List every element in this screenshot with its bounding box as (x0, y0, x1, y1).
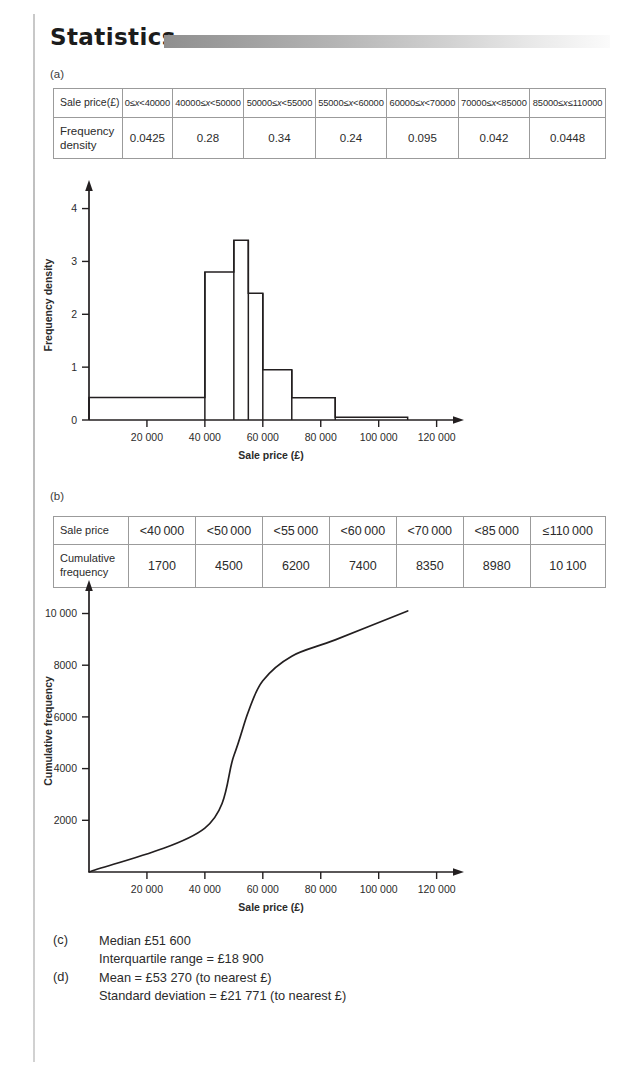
y-tick-label: 10 000 (45, 607, 77, 619)
histogram-x-axis-label: Sale price (£) (238, 449, 303, 461)
x-tick-label: 40 000 (189, 883, 221, 895)
table-row: Sale price(£) 0≤x<40000 40000≤x<50000 50… (54, 89, 606, 118)
table-a-interval-cell: 60000≤x<70000 (387, 89, 458, 118)
table-a-interval-cell: 70000≤x<85000 (458, 89, 529, 118)
x-tick-label: 80 000 (305, 883, 337, 895)
table-a-value-cell: 0.042 (458, 118, 529, 159)
table-b-sale-price-cell: <55 000 (262, 517, 329, 545)
cumulative-frequency-curve-path (89, 611, 408, 872)
histogram-chart: 01234 20 00040 00060 00080 000100 000120… (36, 168, 506, 468)
table-a-value-cell: 0.28 (172, 118, 243, 159)
y-tick-label: 2000 (54, 814, 78, 826)
table-b-sale-price-cell: <85 000 (463, 517, 530, 545)
histogram-y-axis-label: Frequency density (42, 258, 54, 351)
y-tick-label: 4 (71, 202, 77, 214)
table-a-interval-cell: 55000≤x<60000 (315, 89, 386, 118)
table-a-row-header-sale-price: Sale price(£) (54, 89, 123, 118)
cumulative-x-ticks: 20 00040 00060 00080 000100 000120 000 (131, 872, 456, 895)
x-axis-arrowhead (453, 868, 464, 876)
histogram-bars (89, 240, 408, 420)
histogram-svg: 01234 20 00040 00060 00080 000100 000120… (36, 168, 506, 468)
table-b-sale-price-cell: ≤110 000 (530, 517, 605, 545)
answer-block-c: (c) Median £51 600 Interquartile range =… (53, 932, 573, 968)
y-tick-label: 0 (71, 414, 77, 426)
answer-line: Median £51 600 (99, 932, 573, 950)
y-tick-label: 2 (71, 308, 77, 320)
row-header-line-2: density (60, 139, 96, 151)
page-margin-rule (33, 14, 35, 1062)
table-b-sale-price-cell: <40 000 (129, 517, 196, 545)
answer-lines: Mean = £53 270 (to nearest £) Standard d… (99, 969, 573, 1005)
table-a-row-header-frequency-density: Frequency density (54, 118, 123, 159)
table-a-interval-cell: 50000≤x<55000 (244, 89, 315, 118)
section-heading: Statistics (50, 24, 610, 56)
x-axis-arrowhead (453, 416, 464, 424)
x-tick-label: 100 000 (360, 883, 398, 895)
x-tick-label: 100 000 (360, 431, 398, 443)
y-axis-arrowhead (85, 180, 93, 191)
x-tick-label: 40 000 (189, 431, 221, 443)
y-tick-label: 1 (71, 361, 77, 373)
histogram-x-ticks: 20 00040 00060 00080 000100 000120 000 (131, 420, 456, 443)
cumulative-axes (85, 580, 464, 876)
row-header-line-1: Cumulative (60, 552, 115, 564)
answer-block-d: (d) Mean = £53 270 (to nearest £) Standa… (53, 969, 573, 1005)
table-a-interval-cell: 85000≤x≤110000 (530, 89, 606, 118)
table-b-sale-price-cell: <50 000 (195, 517, 262, 545)
y-tick-label: 6000 (54, 711, 78, 723)
table-b-row-header-sale-price: Sale price (54, 517, 129, 545)
cumulative-frequency-svg: 200040006000800010 000 20 00040 00060 00… (36, 568, 506, 920)
table-a-interval-cell: 40000≤x<50000 (172, 89, 243, 118)
table-a-value-cell: 0.095 (387, 118, 458, 159)
table-a-interval-cell: 0≤x<40000 (123, 89, 173, 118)
x-tick-label: 60 000 (247, 431, 279, 443)
histogram-y-ticks: 01234 (71, 202, 89, 425)
x-tick-label: 60 000 (247, 883, 279, 895)
answers-list: (c) Median £51 600 Interquartile range =… (53, 932, 573, 1007)
page-title: Statistics (50, 24, 176, 50)
histogram-axes (85, 180, 464, 424)
answer-line: Standard deviation = £21 771 (to nearest… (99, 987, 573, 1005)
y-axis-arrowhead (85, 580, 93, 591)
answer-line: Mean = £53 270 (to nearest £) (99, 969, 573, 987)
table-row: Sale price <40 000 <50 000 <55 000 <60 0… (54, 517, 606, 545)
answer-tag: (c) (53, 932, 89, 947)
answer-lines: Median £51 600 Interquartile range = £18… (99, 932, 573, 968)
part-label-a: (a) (50, 68, 64, 80)
cumulative-frequency-chart: 200040006000800010 000 20 00040 00060 00… (36, 568, 506, 920)
frequency-density-table: Sale price(£) 0≤x<40000 40000≤x<50000 50… (53, 88, 606, 159)
x-tick-label: 120 000 (418, 431, 456, 443)
x-tick-label: 20 000 (131, 883, 163, 895)
answer-line: Interquartile range = £18 900 (99, 950, 573, 968)
table-row: Frequency density 0.0425 0.28 0.34 0.24 … (54, 118, 606, 159)
heading-gradient-bar (164, 35, 610, 48)
x-tick-label: 80 000 (305, 431, 337, 443)
cumulative-y-axis-label: Cumulative frequency (42, 676, 54, 786)
table-b-sale-price-cell: <60 000 (329, 517, 396, 545)
y-tick-label: 3 (71, 255, 77, 267)
table-a-value-cell: 0.24 (315, 118, 386, 159)
y-tick-label: 4000 (54, 762, 78, 774)
cumulative-x-axis-label: Sale price (£) (238, 901, 303, 913)
answer-tag: (d) (53, 969, 89, 984)
y-tick-label: 8000 (54, 659, 78, 671)
x-tick-label: 20 000 (131, 431, 163, 443)
table-a-value-cell: 0.34 (244, 118, 315, 159)
table-a-value-cell: 0.0448 (530, 118, 606, 159)
row-header-line-1: Frequency (60, 125, 114, 137)
x-tick-label: 120 000 (418, 883, 456, 895)
table-b-value-cell: 10 100 (530, 545, 605, 588)
table-a-value-cell: 0.0425 (123, 118, 173, 159)
table-b-sale-price-cell: <70 000 (396, 517, 463, 545)
part-label-b: (b) (50, 490, 64, 502)
